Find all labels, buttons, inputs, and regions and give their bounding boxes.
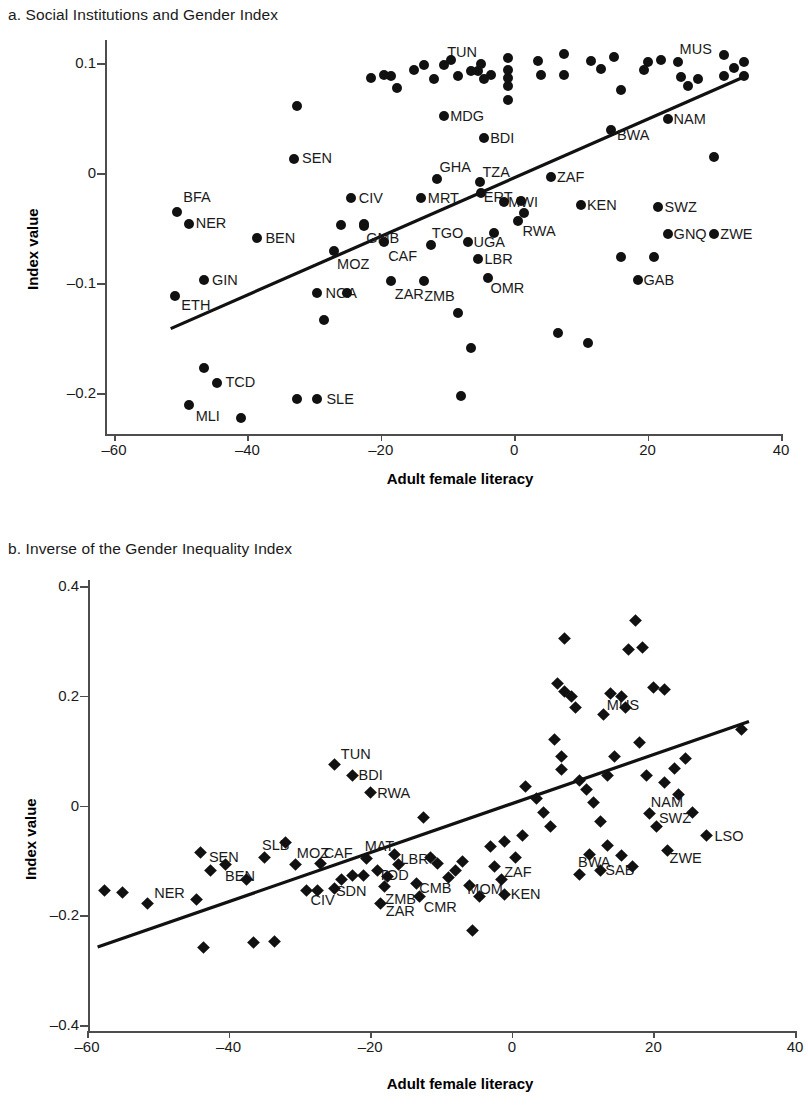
- data-point: [503, 53, 513, 63]
- data-point: [587, 796, 600, 809]
- data-point-label: BFA: [183, 190, 210, 205]
- data-point: [346, 193, 356, 203]
- data-point: [553, 328, 563, 338]
- data-point-label: BEN: [265, 231, 295, 246]
- data-point: [615, 850, 628, 863]
- data-point: [488, 861, 501, 874]
- y-tick-label: 0.1: [16, 54, 96, 71]
- data-point: [432, 174, 442, 184]
- data-point: [736, 723, 749, 736]
- data-point: [700, 829, 713, 842]
- data-point-label: RWA: [523, 224, 556, 239]
- data-point: [446, 55, 456, 65]
- data-point: [357, 869, 370, 882]
- data-point-label: MLI: [196, 409, 220, 424]
- data-point: [479, 133, 489, 143]
- data-point: [199, 363, 209, 373]
- data-point-label: BDI: [359, 768, 383, 783]
- data-point: [530, 793, 543, 806]
- data-point: [639, 65, 649, 75]
- y-tick: [97, 173, 105, 175]
- y-tick: [80, 1025, 88, 1027]
- data-point-label: OMR: [491, 281, 525, 296]
- data-point-label: ETH: [181, 298, 210, 313]
- x-tick-label: 40: [751, 441, 808, 458]
- x-tick-label: 0: [482, 1038, 542, 1055]
- x-tick-label: 40: [765, 1038, 808, 1055]
- data-point-label: KEN: [511, 887, 541, 902]
- data-point: [453, 71, 463, 81]
- panel-b-x-axis-title: Adult female literacy: [330, 1075, 590, 1092]
- data-point-label: RWA: [377, 786, 410, 801]
- data-point: [98, 884, 111, 897]
- data-point: [555, 763, 568, 776]
- data-point: [636, 641, 649, 654]
- data-point-label: LSO: [715, 829, 744, 844]
- data-point: [546, 172, 556, 182]
- data-point: [466, 924, 479, 937]
- data-point: [601, 839, 614, 852]
- data-point-label: GIN: [212, 273, 238, 288]
- y-tick-label: 0.2: [0, 687, 79, 704]
- data-point: [683, 81, 693, 91]
- panel-a-social-institutions: a. Social Institutions and Gender Index …: [0, 0, 808, 540]
- data-point: [212, 378, 222, 388]
- x-tick-label: –60: [84, 441, 144, 458]
- data-point: [419, 60, 429, 70]
- data-point: [416, 193, 426, 203]
- data-point-label: TGO: [432, 226, 463, 241]
- data-point-label: ZWE: [720, 227, 752, 242]
- data-point: [520, 780, 533, 793]
- data-point: [609, 52, 619, 62]
- data-point: [386, 276, 396, 286]
- data-point-label: SDN: [336, 884, 367, 899]
- data-point: [392, 83, 402, 93]
- data-point: [503, 65, 513, 75]
- x-tick-label: –60: [57, 1038, 117, 1055]
- x-tick: [247, 434, 249, 441]
- data-point: [640, 769, 653, 782]
- data-point: [498, 835, 511, 848]
- data-point: [676, 72, 686, 82]
- data-point: [569, 701, 582, 714]
- data-point: [463, 237, 473, 247]
- data-point: [197, 941, 210, 954]
- x-tick: [514, 434, 516, 441]
- data-point: [252, 233, 262, 243]
- x-tick-label: 20: [618, 441, 678, 458]
- data-point: [647, 681, 660, 694]
- data-point-label: BWA: [617, 128, 650, 143]
- y-tick-label: 0: [0, 797, 79, 814]
- panel-b-y-axis: [88, 580, 90, 1032]
- data-point: [503, 95, 513, 105]
- x-tick: [229, 1031, 231, 1038]
- data-point: [544, 820, 557, 833]
- data-point: [719, 50, 729, 60]
- data-point-label: ZAF: [504, 865, 531, 880]
- x-tick: [512, 1031, 514, 1038]
- panel-b-x-axis: [88, 1031, 795, 1033]
- data-point-label: UGA: [474, 235, 505, 250]
- data-point-label: MRT: [428, 191, 459, 206]
- x-tick: [370, 1031, 372, 1038]
- data-point-label: CMR: [424, 900, 457, 915]
- data-point: [328, 758, 341, 771]
- data-point-label: TCD: [225, 375, 255, 390]
- data-point: [594, 816, 607, 829]
- data-point: [236, 413, 246, 423]
- data-point: [319, 315, 329, 325]
- y-tick: [80, 915, 88, 917]
- data-point: [658, 683, 671, 696]
- data-point: [559, 632, 572, 645]
- data-point-label: TUN: [341, 747, 371, 762]
- data-point: [417, 811, 430, 824]
- data-point-label: NGA: [325, 286, 356, 301]
- data-point-label: BDI: [490, 131, 514, 146]
- y-tick-label: 0.4: [0, 577, 79, 594]
- data-point: [559, 70, 569, 80]
- data-point: [663, 229, 673, 239]
- data-point: [616, 85, 626, 95]
- data-point-label: CAF: [324, 846, 353, 861]
- data-point: [537, 806, 550, 819]
- data-point: [409, 65, 419, 75]
